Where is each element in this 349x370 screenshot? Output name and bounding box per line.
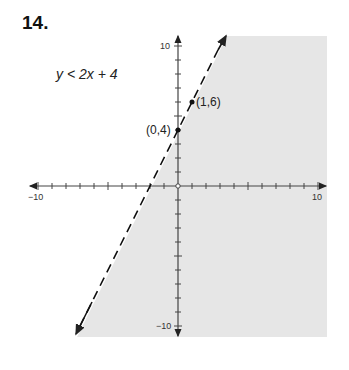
point-1-6: [190, 100, 195, 105]
point-0-4: [176, 128, 181, 133]
point-label-1-6: (1,6): [196, 95, 221, 109]
inequality-graph: (0,4) (1,6) −10 10 10 −10: [0, 0, 349, 370]
x-min-label: −10: [28, 192, 43, 202]
point-label-0-4: (0,4): [146, 123, 171, 137]
y-max-label: 10: [160, 41, 170, 51]
x-max-label: 10: [312, 192, 322, 202]
y-min-label: −10: [156, 321, 171, 331]
